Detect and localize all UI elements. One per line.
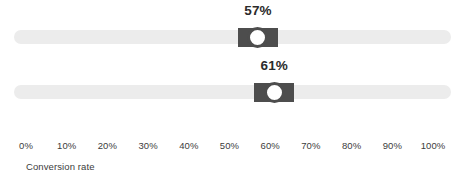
slider-scale-2: 61% [26,57,433,112]
conversion-rate-slider-widget: 57% 61% 0%10%20%30%40%50%60%70%80%90%100… [0,0,465,175]
axis-title: Conversion rate [26,161,95,172]
slider-value-label-2: 61% [261,58,288,73]
axis-tick-label: 90% [383,140,402,151]
axis-tick-label: 40% [179,140,198,151]
slider-thumb-knob-1[interactable] [247,27,268,48]
axis-tick-label: 0% [19,140,33,151]
slider-thumb-1[interactable] [238,28,278,47]
slider-thumb-2[interactable] [254,83,294,102]
axis-tick-label: 30% [138,140,157,151]
slider-scale-1: 57% [26,2,433,57]
axis-tick-label: 50% [220,140,239,151]
axis-tick-label: 70% [301,140,320,151]
slider-thumb-knob-2[interactable] [264,82,285,103]
axis-tick-label: 80% [342,140,361,151]
slider-value-label-1: 57% [244,3,271,18]
slider-row-1: 57% [0,2,465,57]
axis-tick-labels: 0%10%20%30%40%50%60%70%80%90%100% [26,140,433,154]
axis-tick-label: 20% [98,140,117,151]
axis-tick-label: 60% [261,140,280,151]
slider-row-2: 61% [0,57,465,112]
axis-tick-label: 100% [421,140,446,151]
axis-tick-label: 10% [57,140,76,151]
